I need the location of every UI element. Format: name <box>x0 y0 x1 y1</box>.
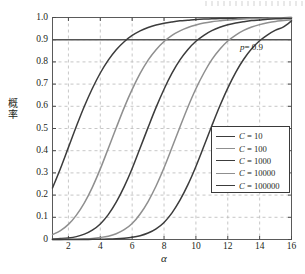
legend-label-0: C = 10 <box>239 131 262 141</box>
legend-label-1: C = 100 <box>239 144 267 154</box>
y-tick-label: 0.2 <box>20 190 48 200</box>
chart-figure: 00.10.20.30.40.50.60.70.80.91.0 24681012… <box>0 0 305 274</box>
y-tick-label: 0.1 <box>20 213 48 223</box>
x-axis-label: α <box>161 252 167 264</box>
x-tick-label: 14 <box>255 242 265 252</box>
x-tick-label: 16 <box>287 242 297 252</box>
legend-swatch-1 <box>216 148 235 149</box>
x-tick-label: 6 <box>130 242 135 252</box>
x-tick-label: 12 <box>223 242 233 252</box>
y-tick-label: 0.7 <box>20 79 48 89</box>
y-tick-label: 0.8 <box>20 57 48 67</box>
y-tick-label: 0.3 <box>20 168 48 178</box>
y-tick-label: 0 <box>20 235 48 245</box>
legend-swatch-4 <box>216 185 235 186</box>
legend-label-4: C = 100000 <box>239 181 280 191</box>
legend-item-3[interactable]: C = 10000 <box>212 167 289 179</box>
y-axis-label: 概率 <box>5 98 21 120</box>
y-tick-label: 0.9 <box>20 35 48 45</box>
legend-value-2: = 1000 <box>245 156 271 166</box>
x-tick-label: 10 <box>191 242 201 252</box>
y-tick-label: 1.0 <box>20 13 48 23</box>
legend-item-4[interactable]: C = 100000 <box>212 180 289 192</box>
x-tick-label: 4 <box>98 242 103 252</box>
legend-swatch-2 <box>216 160 235 161</box>
legend-value-0: = 10 <box>245 131 263 141</box>
y-tick-label: 0.6 <box>20 102 48 112</box>
legend-swatch-3 <box>216 173 235 174</box>
legend-value-1: = 100 <box>245 144 267 154</box>
legend-value-4: = 100000 <box>245 181 280 191</box>
x-tick-label: 8 <box>162 242 167 252</box>
y-tick-label: 0.4 <box>20 146 48 156</box>
legend-label-2: C = 1000 <box>239 156 271 166</box>
legend-item-2[interactable]: C = 1000 <box>212 155 289 167</box>
legend-item-0[interactable]: C = 10 <box>212 130 289 142</box>
y-tick-label: 0.5 <box>20 124 48 134</box>
legend-label-3: C = 10000 <box>239 168 275 178</box>
legend-swatch-0 <box>216 136 235 137</box>
p-threshold-value: = 0.9 <box>245 42 264 52</box>
legend-value-3: = 10000 <box>245 168 276 178</box>
chart-legend[interactable]: C = 10C = 100C = 1000C = 10000C = 100000 <box>211 126 290 193</box>
legend-item-1[interactable]: C = 100 <box>212 142 289 154</box>
p-threshold-annotation: p= 0.9 <box>240 42 263 52</box>
x-tick-label: 2 <box>66 242 71 252</box>
